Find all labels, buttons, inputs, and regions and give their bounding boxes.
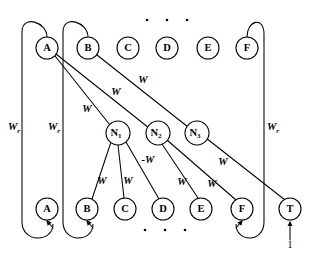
node-top-a-label: A bbox=[43, 42, 51, 53]
label-w-n1-d: -W bbox=[142, 154, 155, 165]
node-bottom-e[interactable]: E bbox=[190, 198, 212, 220]
node-top-f-label: F bbox=[244, 42, 250, 53]
edge-n3-to-t bbox=[206, 138, 285, 200]
diagram-root: A B C D E F N1 N2 N3 A B C bbox=[0, 0, 310, 255]
node-hidden-n2[interactable]: N2 bbox=[146, 121, 170, 145]
label-w-n3-t: W bbox=[218, 156, 228, 167]
edge-n1-to-b bbox=[92, 142, 111, 199]
edge-n1-to-d bbox=[126, 142, 159, 199]
node-bottom-t-label: T bbox=[286, 203, 293, 214]
label-w-b-n3: W bbox=[138, 74, 148, 85]
node-top-b[interactable]: B bbox=[77, 37, 99, 59]
node-bottom-a[interactable]: A bbox=[36, 198, 58, 220]
recurrent-arc-b-arrow bbox=[87, 221, 93, 228]
top-ellipsis bbox=[146, 19, 189, 22]
edge-top-a-to-n2 bbox=[56, 54, 149, 128]
label-wr-right-f: Wr bbox=[267, 121, 279, 134]
node-top-b-label: B bbox=[84, 42, 91, 53]
recurrent-arc-f-arrow bbox=[236, 221, 242, 228]
node-top-e[interactable]: E bbox=[197, 37, 219, 59]
node-hidden-n1[interactable]: N1 bbox=[106, 121, 130, 145]
edge-n1-to-c bbox=[118, 145, 124, 198]
recurrent-arc-a-arrow bbox=[47, 221, 53, 228]
network-diagram-svg: A B C D E F N1 N2 N3 A B C bbox=[0, 0, 310, 255]
node-bottom-a-label: A bbox=[43, 203, 51, 214]
node-hidden-n3[interactable]: N3 bbox=[185, 121, 209, 145]
node-bottom-f-label: F bbox=[239, 203, 245, 214]
node-bottom-t[interactable]: T bbox=[279, 198, 301, 220]
label-w-n2-f: W bbox=[207, 178, 217, 189]
node-bottom-f[interactable]: F bbox=[231, 198, 253, 220]
label-w-a-n1: W bbox=[82, 103, 92, 114]
node-top-c-label: C bbox=[124, 42, 132, 53]
node-bottom-c[interactable]: C bbox=[114, 198, 136, 220]
label-wr-left-b: Wr bbox=[48, 121, 60, 134]
node-bottom-b[interactable]: B bbox=[76, 198, 98, 220]
node-top-a[interactable]: A bbox=[36, 37, 58, 59]
bottom-ellipsis bbox=[144, 229, 187, 232]
node-top-d[interactable]: D bbox=[156, 37, 178, 59]
node-bottom-d-label: D bbox=[159, 203, 167, 214]
node-top-d-label: D bbox=[163, 42, 171, 53]
node-bottom-c-label: C bbox=[121, 203, 129, 214]
node-top-f[interactable]: F bbox=[236, 37, 258, 59]
edge-n2-to-f bbox=[167, 140, 236, 200]
edge-n2-to-e bbox=[162, 144, 198, 198]
label-w-n2-e: W bbox=[177, 176, 187, 187]
label-w-n1-c: W bbox=[123, 175, 133, 186]
node-bottom-d[interactable]: D bbox=[152, 198, 174, 220]
label-bias-one: 1 bbox=[288, 239, 293, 250]
label-w-n1-b: W bbox=[97, 175, 107, 186]
node-top-e-label: E bbox=[204, 42, 211, 53]
label-wr-left-a: Wr bbox=[8, 121, 20, 134]
node-bottom-b-label: B bbox=[83, 203, 90, 214]
node-top-c[interactable]: C bbox=[117, 37, 139, 59]
node-bottom-e-label: E bbox=[197, 203, 204, 214]
label-w-a-n2: W bbox=[111, 86, 121, 97]
